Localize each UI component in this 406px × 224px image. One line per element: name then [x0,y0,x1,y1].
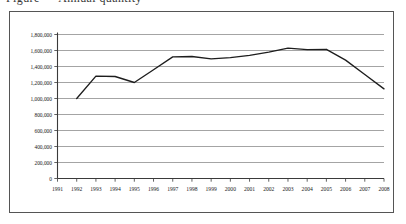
y-axis-tick-label: 800,000 [34,112,52,118]
data-series-line [77,48,384,98]
x-axis-tick-label: 1999 [206,186,217,192]
chart-canvas: 1,800,0001,600,0001,400,0001,200,0001,00… [10,12,392,211]
y-axis-tick-label: 1,800,000 [30,32,52,38]
x-axis-tick-label: 2006 [340,186,351,192]
y-axis-tick-label: 600,000 [34,128,52,134]
figure-caption: Figure — Annual quantity [6,0,142,6]
x-axis-tick-label: 1994 [110,186,121,192]
chart-frame: 1,800,0001,600,0001,400,0001,200,0001,00… [9,11,394,213]
x-axis-tick-label: 2007 [359,186,370,192]
y-axis-tick-label: 200,000 [34,160,52,166]
x-axis-tick-label: 1998 [186,186,197,192]
y-axis-tick-label: 400,000 [34,144,52,150]
x-axis-tick-label: 2003 [282,186,293,192]
y-axis-tick-label: 1,200,000 [30,80,52,86]
x-axis-tick-label: 1996 [148,186,159,192]
x-axis-tick-label: 2001 [244,186,255,192]
x-axis-tick-label: 1991 [52,186,63,192]
x-axis-tick-label: 2004 [302,186,313,192]
x-axis-tick-label: 1993 [90,186,101,192]
y-axis-tick-label: 0 [49,176,52,182]
line-chart: 1,800,0001,600,0001,400,0001,200,0001,00… [10,12,393,212]
x-axis-tick-label: 2000 [225,186,236,192]
x-axis-tick-label: 2005 [321,186,332,192]
x-axis-tick-label: 2002 [263,186,274,192]
x-axis-tick-label: 1992 [71,186,82,192]
y-axis-labels-group: 1,800,0001,600,0001,400,0001,200,0001,00… [30,32,52,182]
x-axis-tick-label: 2008 [378,186,389,192]
x-axis-tick-label: 1995 [129,186,140,192]
y-axis-tick-label: 1,400,000 [30,64,52,70]
y-axis-tick-label: 1,600,000 [30,48,52,54]
x-axis-tick-label: 1997 [167,186,178,192]
y-axis-tick-label: 1,000,000 [30,96,52,102]
caption-strip: Figure — Annual quantity [0,0,406,9]
x-axis-labels-group: 1991199219931994199519961997199819992000… [52,186,390,192]
